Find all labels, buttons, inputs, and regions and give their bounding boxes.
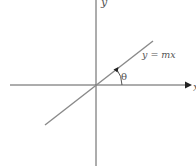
diagram-canvas: y x y = mx θ xyxy=(0,0,196,167)
y-axis-label: y xyxy=(100,0,108,9)
x-axis-label: x xyxy=(193,81,196,94)
line-y-equals-mx xyxy=(45,41,153,125)
line-equation-label: y = mx xyxy=(141,49,176,60)
x-axis-arrowhead-icon xyxy=(185,82,192,89)
angle-theta-label: θ xyxy=(121,71,127,82)
